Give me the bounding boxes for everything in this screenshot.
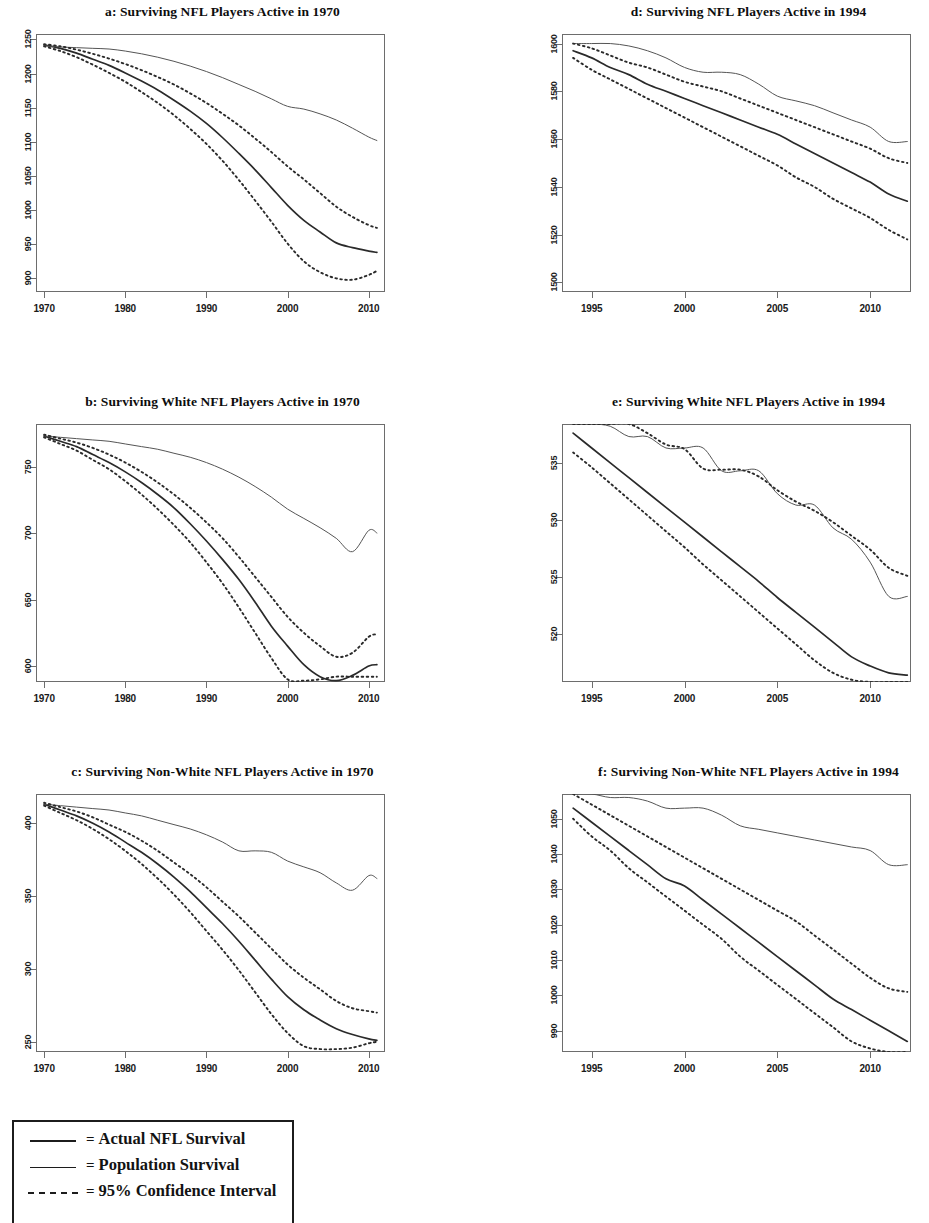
x-tick-label: 2000 [277,693,298,704]
x-tick-label: 2010 [358,693,379,704]
y-tick-label: 350 [23,896,33,910]
y-tick-label: 520 [549,634,559,648]
x-tick [777,292,778,298]
series-dashed [44,803,377,1013]
x-tick [44,682,45,688]
x-tick [777,682,778,688]
x-tick-label: 1995 [581,693,602,704]
x-tick-label: 2000 [674,693,695,704]
y-tick-label: 1010 [549,960,559,979]
y-tick-label: 1000 [549,995,559,1014]
panel-c: c: Surviving Non-White NFL Players Activ… [0,764,465,1144]
x-tick [870,682,871,688]
x-tick-label: 2000 [277,1063,298,1074]
y-tick-label: 1580 [549,91,559,110]
x-tick-label: 1995 [581,303,602,314]
y-tick-label: 535 [549,463,559,477]
legend-label-ci: =95% Confidence Interval [86,1181,276,1201]
y-tick-label: 1250 [23,39,33,58]
y-tick-label: 1030 [549,889,559,908]
series-solid-thick [573,51,907,202]
x-tick-label: 2005 [767,303,788,314]
legend-key-solid-thick-icon [28,1133,80,1145]
x-tick-label: 2005 [767,693,788,704]
x-tick [592,292,593,298]
legend-entry-actual: =Actual NFL Survival [28,1128,245,1150]
y-tick-label: 1100 [23,142,33,161]
x-tick-label: 1980 [115,1063,136,1074]
y-tick-label: 900 [23,278,33,292]
legend-label-population: =Population Survival [86,1155,239,1175]
y-tick-label: 1040 [549,854,559,873]
panel-d: d: Surviving NFL Players Active in 1994 … [526,4,929,384]
y-tick-label: 525 [549,577,559,591]
series-solid-thin [44,436,377,552]
y-tick-label: 1600 [549,44,559,63]
legend-key-dashed-icon [28,1185,80,1197]
panel-b-curves [36,424,385,682]
y-tick-label: 1050 [23,176,33,195]
x-tick-label: 1990 [196,1063,217,1074]
panel-e: e: Surviving White NFL Players Active in… [526,394,929,774]
y-tick-label: 1520 [549,235,559,254]
y-tick-label: 1540 [549,187,559,206]
x-tick [44,292,45,298]
x-tick [777,1052,778,1058]
panel-c-title: c: Surviving Non-White NFL Players Activ… [0,764,445,780]
x-tick-label: 2000 [674,1063,695,1074]
y-tick-label: 1150 [23,108,33,127]
series-solid-thick [44,45,377,252]
legend-entry-population: =Population Survival [28,1154,239,1176]
series-dashed [573,424,907,576]
y-tick-label: 1500 [549,282,559,301]
series-dashed [44,44,377,228]
y-tick-label: 600 [23,666,33,680]
series-dashed [573,819,907,1052]
panel-e-plot: 5205255305351995200020052010 [562,424,911,682]
x-tick [870,1052,871,1058]
panel-a: a: Surviving NFL Players Active in 1970 … [0,4,465,384]
x-tick-label: 2010 [859,1063,880,1074]
y-tick-label: 700 [23,533,33,547]
series-dashed [44,806,377,1050]
y-tick-label: 950 [23,244,33,258]
x-tick [288,292,289,298]
x-tick [369,682,370,688]
x-tick-label: 2010 [358,303,379,314]
panel-b: b: Surviving White NFL Players Active in… [0,394,465,774]
y-tick-label: 1050 [549,819,559,838]
panel-f-plot: 9901000101010201030104010501995200020052… [562,794,911,1052]
y-tick-label: 650 [23,600,33,614]
x-tick-label: 2010 [859,693,880,704]
x-tick [369,292,370,298]
x-tick-label: 2000 [277,303,298,314]
panel-f-curves [562,794,911,1052]
x-tick [206,1052,207,1058]
x-tick-label: 2000 [674,303,695,314]
y-tick-label: 750 [23,467,33,481]
legend-entry-ci: =95% Confidence Interval [28,1180,276,1202]
x-tick [592,682,593,688]
x-tick [125,292,126,298]
series-solid-thick [44,436,377,681]
panel-d-plot: 1500152015401560158016001995200020052010 [562,34,911,292]
x-tick-label: 2005 [767,1063,788,1074]
x-tick-label: 1995 [581,1063,602,1074]
x-tick-label: 1980 [115,303,136,314]
panel-d-curves [562,34,911,292]
x-tick-label: 2010 [358,1063,379,1074]
x-tick-label: 2010 [859,303,880,314]
x-tick-label: 1990 [196,303,217,314]
y-tick-label: 300 [23,969,33,983]
y-tick-label: 530 [549,520,559,534]
x-tick-label: 1970 [33,303,54,314]
series-solid-thin [573,424,907,599]
x-tick [206,682,207,688]
panel-d-title: d: Surviving NFL Players Active in 1994 [526,4,929,20]
x-tick [369,1052,370,1058]
panel-a-plot: 9009501000105011001150120012501970198019… [36,34,385,292]
x-tick [870,292,871,298]
x-tick [288,1052,289,1058]
panel-b-title: b: Surviving White NFL Players Active in… [0,394,445,410]
y-tick-label: 1020 [549,925,559,944]
